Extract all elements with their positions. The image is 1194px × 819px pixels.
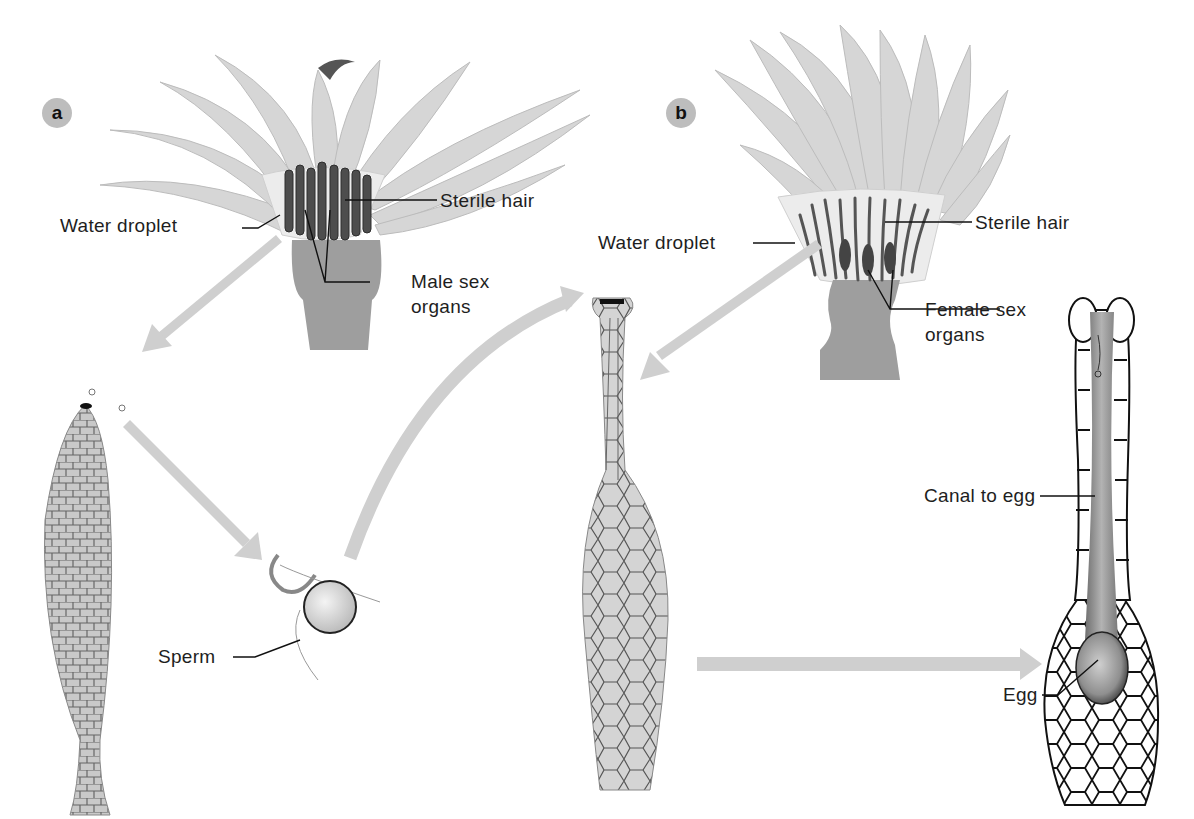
- moss-reproduction-diagram: a b Water droplet Sterile hair Male sex …: [0, 0, 1194, 819]
- arrow-archegonium-to-section: [697, 648, 1042, 680]
- antheridium-illustration: [44, 389, 125, 815]
- label-female-sex-organs-line2: organs: [925, 323, 985, 346]
- arrow-head-to-antheridium: [142, 235, 282, 352]
- arrow-head-to-archegonium: [640, 240, 822, 380]
- label-water-droplet-a: Water droplet: [60, 214, 177, 237]
- archegonium-section-illustration: [1040, 298, 1158, 805]
- label-male-sex-organs-line1: Male sex: [411, 270, 489, 293]
- sperm-illustration: [233, 555, 380, 680]
- arrow-sperm-to-archegonium: [350, 286, 584, 558]
- label-sterile-hair-a: Sterile hair: [440, 189, 534, 212]
- arrow-antheridium-to-sperm: [123, 420, 262, 560]
- panel-a-badge: a: [42, 98, 72, 128]
- label-egg: Egg: [1003, 683, 1038, 706]
- label-sperm: Sperm: [158, 645, 215, 668]
- label-male-sex-organs-line2: organs: [411, 295, 471, 318]
- label-female-sex-organs-line1: Female sex: [925, 298, 1026, 321]
- label-water-droplet-b: Water droplet: [598, 231, 715, 254]
- label-sterile-hair-b: Sterile hair: [975, 211, 1069, 234]
- panel-b-badge: b: [666, 98, 696, 128]
- label-canal-to-egg: Canal to egg: [924, 484, 1035, 507]
